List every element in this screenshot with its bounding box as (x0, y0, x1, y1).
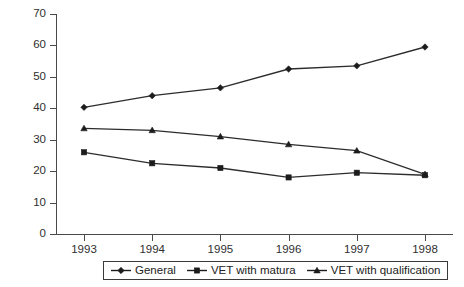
legend-entry: VET with qualification (307, 265, 441, 277)
data-point-diamond (81, 104, 87, 110)
legend-entry: General (111, 265, 176, 277)
data-point-square (218, 165, 223, 170)
legend-marker-triangle-icon (307, 265, 327, 276)
plot-series-layer (0, 0, 464, 287)
data-point-square (194, 268, 199, 273)
data-point-square (150, 161, 155, 166)
chart-legend: GeneralVET with maturaVET with qualifica… (103, 261, 448, 280)
series-line (84, 128, 425, 174)
data-point-square (354, 170, 359, 175)
data-point-diamond (422, 44, 428, 50)
legend-marker-square-icon (187, 265, 207, 276)
legend-marker-diamond-icon (111, 265, 131, 276)
legend-label: General (134, 265, 176, 277)
series-vet-with-matura (81, 150, 427, 180)
legend-entry: VET with matura (187, 265, 296, 277)
data-point-diamond (217, 85, 223, 91)
data-point-diamond (354, 63, 360, 69)
legend-label: VET with qualification (330, 265, 441, 277)
series-general (81, 44, 428, 111)
data-point-square (81, 150, 86, 155)
data-point-diamond (118, 267, 124, 273)
data-point-diamond (285, 66, 291, 72)
legend-label: VET with matura (210, 265, 296, 277)
line-chart: 010203040506070 199319941995199619971998… (0, 0, 464, 287)
data-point-diamond (149, 93, 155, 99)
series-vet-with-qualification (81, 125, 428, 176)
series-line (84, 47, 425, 107)
data-point-square (286, 175, 291, 180)
